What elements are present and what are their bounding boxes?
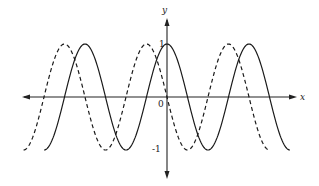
- y-axis-top-arrow-icon: [165, 18, 170, 26]
- x-axis-left-arrow-icon: [22, 95, 30, 100]
- y-tick-1-label: 1: [159, 39, 165, 49]
- function-graph: x y 0 1 -1: [0, 0, 319, 186]
- y-tick-neg1-label: -1: [152, 144, 161, 154]
- origin-label: 0: [158, 99, 164, 109]
- x-axis-right-arrow-icon: [289, 95, 297, 100]
- x-axis-label: x: [300, 92, 305, 102]
- y-axis-label: y: [161, 5, 168, 15]
- y-axis-bottom-arrow-icon: [165, 171, 170, 179]
